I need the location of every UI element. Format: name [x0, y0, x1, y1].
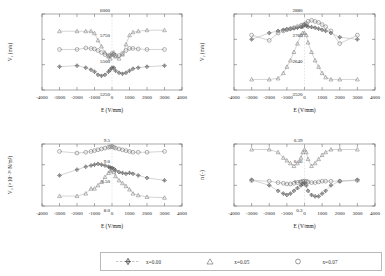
- x-tick-label: 3000: [160, 211, 171, 216]
- data-point: [84, 66, 88, 70]
- data-point: [317, 27, 321, 31]
- y-tick-label: 2880: [293, 8, 304, 13]
- x-tick-label: -1000: [89, 211, 101, 216]
- plot-top-right: -4000-3000-2000-100001000200030004000252…: [192, 0, 385, 130]
- data-point: [131, 67, 135, 71]
- data-point: [96, 162, 100, 166]
- data-point: [121, 171, 125, 175]
- x-tick-label: 2000: [335, 95, 346, 100]
- y-axis-label: V₁ (m/s): [7, 43, 14, 62]
- data-point: [121, 72, 125, 76]
- x-tick-label: 0: [111, 211, 114, 216]
- x-tick-label: -3000: [246, 211, 258, 216]
- data-point: [75, 168, 79, 172]
- data-point: [117, 71, 121, 75]
- series-line: [252, 150, 358, 167]
- figure-panel-grid: -4000-3000-2000-100001000200030004000525…: [0, 0, 385, 246]
- data-point: [124, 172, 128, 176]
- legend-marker-triangle-icon: [203, 257, 229, 266]
- x-tick-label: 1000: [125, 211, 136, 216]
- y-axis-label: V₂ (m/s): [199, 43, 206, 62]
- data-point: [163, 178, 167, 182]
- y-tick-label: 0.39: [294, 138, 303, 143]
- y-tick-label: 9.5: [104, 138, 111, 143]
- y-tick-label: 8.0: [104, 208, 111, 213]
- y-tick-label: 5250: [100, 92, 111, 97]
- legend-label-x007: x=0.07: [322, 259, 337, 265]
- y-tick-label: 2520: [293, 92, 304, 97]
- x-axis-label: E (V/mm): [293, 107, 315, 114]
- x-tick-label: 4000: [177, 211, 188, 216]
- data-point: [93, 163, 97, 167]
- x-tick-label: 4000: [370, 211, 381, 216]
- data-point: [100, 74, 104, 78]
- data-point: [58, 174, 62, 178]
- x-tick-label: 1000: [317, 95, 328, 100]
- data-point: [89, 164, 93, 168]
- x-tick-label: 0: [303, 211, 306, 216]
- x-tick-label: 2000: [142, 95, 153, 100]
- x-tick-label: -1000: [89, 95, 101, 100]
- y-tick-label: 9.0: [104, 159, 111, 164]
- x-tick-label: -4000: [228, 95, 240, 100]
- data-point: [267, 31, 271, 35]
- data-point: [338, 35, 342, 39]
- x-tick-label: 4000: [370, 95, 381, 100]
- legend-label-x000: x=0.00: [146, 259, 161, 265]
- x-axis-label: E (V/mm): [101, 107, 123, 114]
- x-tick-label: 0: [111, 95, 114, 100]
- x-tick-label: -3000: [246, 95, 258, 100]
- x-tick-label: 3000: [160, 95, 171, 100]
- x-tick-label: -4000: [36, 211, 48, 216]
- data-point: [163, 64, 167, 68]
- x-tick-label: -4000: [36, 95, 48, 100]
- x-tick-label: -2000: [71, 95, 83, 100]
- panel-top-left: -4000-3000-2000-100001000200030004000525…: [0, 0, 192, 130]
- data-point: [355, 37, 359, 41]
- data-point: [355, 33, 359, 37]
- x-tick-label: 3000: [352, 211, 363, 216]
- data-point: [131, 172, 135, 176]
- x-tick-label: -2000: [71, 211, 83, 216]
- x-tick-label: -3000: [54, 95, 66, 100]
- y-axis-label: n (-): [199, 170, 206, 180]
- data-point: [75, 64, 79, 68]
- x-tick-label: 2000: [142, 211, 153, 216]
- data-point: [136, 66, 140, 70]
- panel-bottom-left: -4000-3000-2000-1000010002000300040008.0…: [0, 130, 192, 246]
- data-point: [250, 33, 254, 37]
- data-point: [124, 71, 128, 75]
- panel-top-right: -4000-3000-2000-100001000200030004000252…: [192, 0, 385, 130]
- plot-bottom-right: -4000-3000-2000-1000010002000300040000.3…: [192, 130, 385, 246]
- data-point: [310, 25, 314, 29]
- plot-bottom-left: -4000-3000-2000-1000010002000300040008.0…: [0, 130, 192, 246]
- y-axis-label: V₃ (×10⁻²⁰ N/m²): [7, 156, 14, 195]
- data-point: [89, 68, 93, 72]
- x-tick-label: 1000: [317, 211, 328, 216]
- data-point: [58, 65, 62, 69]
- x-tick-label: -1000: [281, 211, 293, 216]
- x-tick-label: 0: [303, 95, 306, 100]
- x-tick-label: -2000: [263, 95, 275, 100]
- y-tick-label: 0.3: [296, 208, 303, 213]
- y-tick-label: 2640: [293, 59, 304, 64]
- x-tick-label: 2000: [335, 211, 346, 216]
- x-tick-label: -4000: [228, 211, 240, 216]
- data-point: [320, 28, 324, 32]
- data-point: [128, 171, 132, 175]
- data-point: [324, 29, 328, 33]
- data-point: [145, 65, 149, 69]
- figure-legend: x=0.00 x=0.05 x=0.07: [100, 252, 382, 271]
- data-point: [128, 69, 132, 73]
- x-tick-label: 1000: [125, 95, 136, 100]
- legend-item-x000: x=0.00: [115, 257, 161, 266]
- data-point: [267, 183, 271, 187]
- data-point: [145, 176, 149, 180]
- x-tick-label: 3000: [352, 95, 363, 100]
- x-axis-label: E (V/mm): [101, 223, 123, 230]
- x-tick-label: -2000: [263, 211, 275, 216]
- data-point: [84, 165, 88, 169]
- plot-top-left: -4000-3000-2000-100001000200030004000525…: [0, 0, 192, 130]
- legend-item-x005: x=0.05: [203, 257, 249, 266]
- legend-label-x005: x=0.05: [234, 259, 249, 265]
